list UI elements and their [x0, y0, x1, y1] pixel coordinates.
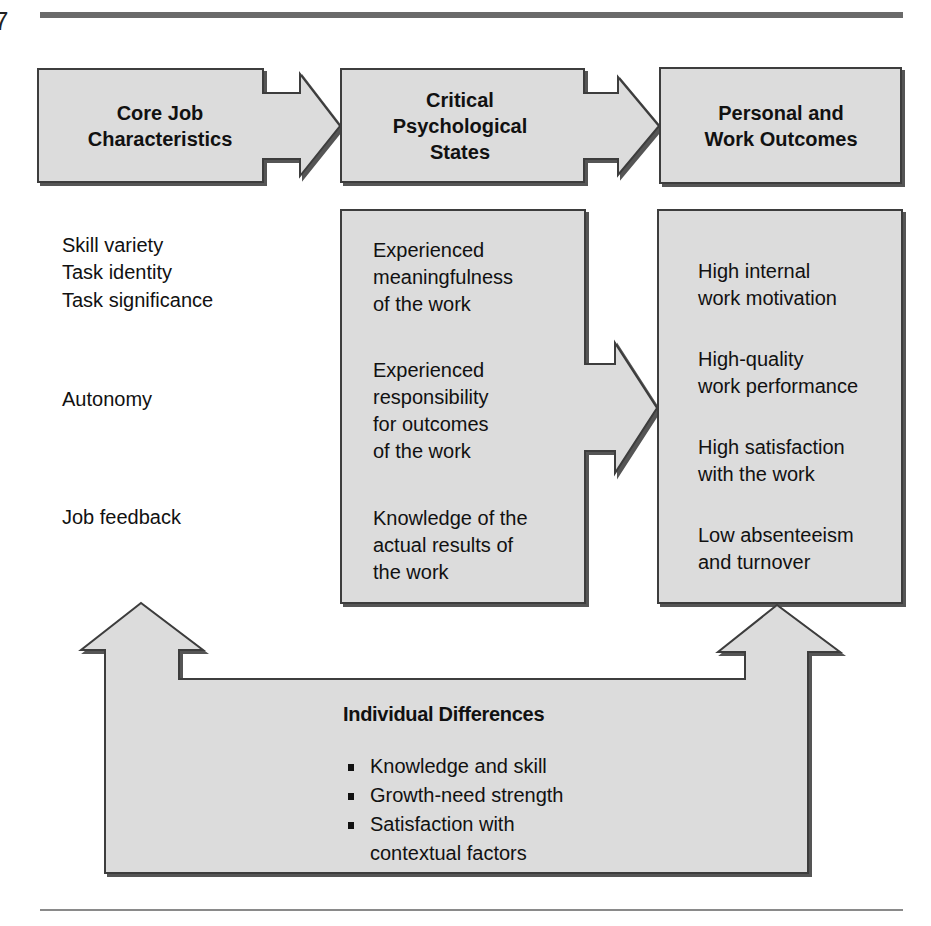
outcome-absenteeism: Low absenteeism and turnover: [698, 522, 854, 576]
individual-differences-title: Individual Differences: [343, 703, 544, 726]
bullet-icon: [348, 764, 354, 771]
list-item: Satisfaction with contextual factors: [346, 810, 563, 868]
bullet-icon: [348, 822, 354, 829]
state-knowledge-of-results: Knowledge of the actual results of the w…: [373, 505, 528, 586]
state-meaningfulness: Experienced meaningfulness of the work: [373, 237, 513, 318]
outcome-satisfaction: High satisfaction with the work: [698, 434, 845, 488]
list-item: Task identity: [62, 259, 172, 286]
critical-states-title: Critical Psychological States: [355, 87, 565, 165]
outcome-performance: High-quality work performance: [698, 346, 858, 400]
core-job-title: Core Job Characteristics: [60, 100, 260, 152]
list-item: Job feedback: [62, 504, 181, 531]
individual-differences-list: Knowledge and skill Growth-need strength…: [346, 752, 563, 868]
outcomes-title: Personal and Work Outcomes: [665, 100, 897, 152]
state-responsibility: Experienced responsibility for outcomes …: [373, 357, 489, 465]
bottom-rule: [40, 909, 903, 911]
outcome-motivation: High internal work motivation: [698, 258, 837, 312]
list-item: Skill variety: [62, 232, 163, 259]
bullet-icon: [348, 793, 354, 800]
list-item: Task significance: [62, 287, 213, 314]
list-item: Autonomy: [62, 386, 152, 413]
list-item: Growth-need strength: [346, 781, 563, 810]
list-item: Knowledge and skill: [346, 752, 563, 781]
